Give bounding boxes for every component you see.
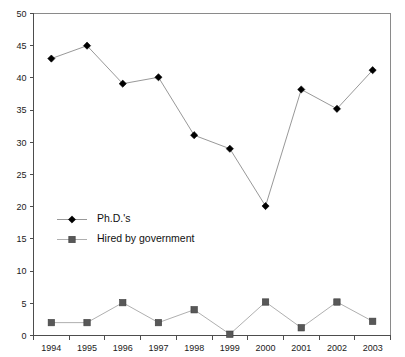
y-tick-label: 10 (16, 266, 26, 276)
data-point-marker (155, 74, 162, 81)
y-tick-label: 35 (16, 105, 26, 115)
x-tick-label: 2001 (291, 343, 311, 353)
y-tick-label: 25 (16, 170, 26, 180)
data-point-marker (226, 145, 233, 152)
y-tick-label: 45 (16, 41, 26, 51)
x-tick-label: 1999 (220, 343, 240, 353)
x-tick-label: 2002 (327, 343, 347, 353)
data-point-marker (369, 318, 375, 324)
data-point-marker (227, 331, 233, 337)
data-point-marker (298, 325, 304, 331)
chart-canvas: 0510152025303540455019941995199619971998… (0, 0, 405, 357)
y-tick-label: 20 (16, 202, 26, 212)
data-point-marker (48, 55, 55, 62)
data-point-marker (48, 319, 54, 325)
data-point-marker (262, 202, 269, 209)
y-tick-label: 15 (16, 234, 26, 244)
series-line-2 (51, 302, 372, 334)
data-point-marker (84, 319, 90, 325)
data-point-marker (298, 86, 305, 93)
data-point-marker (334, 299, 340, 305)
x-tick-label: 2003 (363, 343, 383, 353)
data-point-marker (155, 319, 161, 325)
legend-label-1: Ph.D.'s (97, 212, 131, 224)
x-tick-label: 1997 (148, 343, 168, 353)
data-point-marker (262, 299, 268, 305)
line-chart: 0510152025303540455019941995199619971998… (0, 0, 405, 357)
data-point-marker (191, 307, 197, 313)
data-point-marker (120, 299, 126, 305)
legend-marker-diamond-icon (68, 216, 75, 223)
x-tick-label: 1995 (77, 343, 97, 353)
legend-label-2: Hired by government (97, 232, 195, 244)
y-tick-label: 50 (16, 9, 26, 19)
data-point-marker (191, 132, 198, 139)
x-tick-label: 1994 (41, 343, 61, 353)
y-tick-label: 5 (21, 299, 26, 309)
y-tick-label: 0 (21, 331, 26, 341)
x-tick-label: 1996 (113, 343, 133, 353)
y-tick-label: 40 (16, 73, 26, 83)
legend-marker-square-icon (69, 236, 75, 242)
x-tick-label: 2000 (256, 343, 276, 353)
series-line-1 (51, 46, 372, 206)
x-tick-label: 1998 (184, 343, 204, 353)
y-tick-label: 30 (16, 138, 26, 148)
